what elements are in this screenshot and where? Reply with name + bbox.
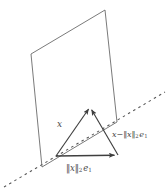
label-base-norm-sub: 2 [79,167,83,173]
label-base-basis-sub: 1 [88,167,92,173]
label-vector-difference: x−‖x‖2 e1 [112,131,148,139]
label-vector-norm-x-e1: ‖x‖2 e1 [66,164,92,174]
vector-norm-x-e1-arrow [56,155,115,156]
label-diff-basis-sub: 1 [144,133,147,139]
householder-figure: x x−‖x‖2 e1 ‖x‖2 e1 [0,0,168,192]
hyperplane-parallelogram [31,10,117,167]
label-vector-x: x [57,120,62,129]
